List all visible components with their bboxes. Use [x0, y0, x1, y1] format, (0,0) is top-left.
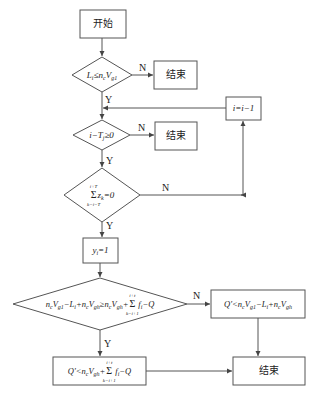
start-label: 开始 [80, 18, 126, 30]
decrement-label: i=i−1 [226, 102, 261, 114]
edge-label-c1-no: N [139, 63, 146, 73]
edge-label-c2-no: N [138, 123, 145, 133]
flowchart-canvas [0, 0, 315, 398]
end1-label: 结束 [154, 69, 197, 81]
end3-label: 结束 [233, 365, 305, 377]
edge-label-c2-yes: Y [106, 156, 113, 166]
assign-label: yi=1 [83, 244, 118, 259]
sum-symbol: i+TΣk=i−T [91, 189, 97, 201]
result-y-label: Q′<ncVgh+i+tΣk=i+1 fi−Q [53, 365, 146, 380]
edge-label-c4-no: N [193, 291, 200, 301]
edge-label-c3-yes: Y [106, 221, 113, 231]
cond2-label: i−Tj≥0 [73, 129, 130, 144]
result-n-label: Q′<ncVg1−Li+ncVgh [211, 298, 305, 313]
cond3-label: i+TΣk=i−Tzk=0 [64, 189, 140, 204]
edge-label-c4-yes: Y [104, 339, 111, 349]
edge-label-c3-no: N [162, 183, 169, 193]
edge-label-c1-yes: Y [105, 95, 112, 105]
cond1-label: Li≤ncVg1 [72, 69, 132, 84]
end2-label: 结束 [155, 130, 197, 142]
cond4-label: ncVg1−Li+ncVgh≥ncVgh+i+tΣk=i+1 fi−Q [30, 298, 170, 313]
